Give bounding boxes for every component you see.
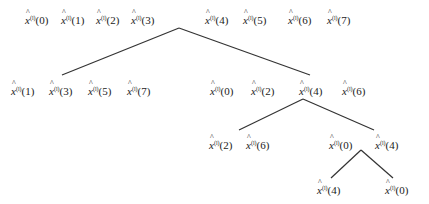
node-label: x(l)(5)	[243, 12, 266, 26]
node-label: x(l)(6)	[246, 137, 269, 151]
node-label: x(l)(2)	[96, 12, 119, 26]
node-label: x(l)(4)	[317, 182, 340, 196]
node-label: x(l)(7)	[127, 83, 150, 97]
node-label: x(l)(0)	[25, 12, 48, 26]
edge-root-left	[62, 28, 179, 75]
node-label: x(l)(7)	[327, 12, 350, 26]
tree-edges	[0, 0, 429, 204]
node-label: x(l)(2)	[251, 83, 274, 97]
edge-root-right	[179, 28, 310, 75]
node-label: x(l)(4)	[299, 83, 322, 97]
node-label: x(l)(5)	[88, 83, 111, 97]
node-label: x(l)(1)	[11, 83, 34, 97]
node-label: x(l)(0)	[210, 83, 233, 97]
node-label: x(l)(0)	[329, 137, 352, 151]
node-label: x(l)(0)	[385, 182, 408, 196]
tree-diagram: x(l)(0) x(l)(1) x(l)(2) x(l)(3) x(l)(4) …	[0, 0, 429, 204]
node-label: x(l)(2)	[209, 137, 232, 151]
edge-l2-right	[361, 150, 393, 178]
node-label: x(l)(6)	[342, 83, 365, 97]
edge-l2-left	[331, 150, 361, 178]
node-label: x(l)(4)	[375, 137, 398, 151]
edge-l1-right	[303, 99, 374, 130]
node-label: x(l)(6)	[288, 12, 311, 26]
node-label: x(l)(1)	[61, 12, 84, 26]
edge-l1-left	[239, 99, 303, 130]
node-label: x(l)(3)	[131, 12, 154, 26]
node-label: x(l)(3)	[49, 83, 72, 97]
node-label: x(l)(4)	[205, 12, 228, 26]
